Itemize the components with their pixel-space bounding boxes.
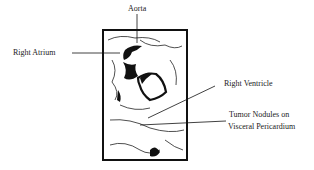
tumor-nodules-label-line1: Tumor Nodules on bbox=[229, 110, 289, 119]
right-atrium-label: Right Atrium bbox=[13, 48, 55, 57]
tumor-nodules-label-line2: Visceral Pericardium bbox=[228, 122, 295, 131]
right-ventricle-label: Right Ventricle bbox=[224, 79, 273, 88]
aorta-label: Aorta bbox=[128, 4, 146, 13]
